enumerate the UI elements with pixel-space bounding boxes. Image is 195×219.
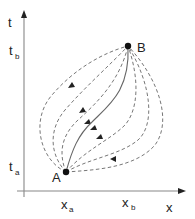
x-axis-label: x — [166, 200, 173, 215]
dashed-path-2 — [53, 46, 128, 172]
svg-text:a: a — [15, 168, 20, 177]
svg-text:x: x — [61, 197, 68, 212]
point-a-label: A — [52, 170, 61, 185]
point-a-marker — [63, 169, 69, 175]
svg-text:b: b — [15, 52, 20, 61]
diagram-canvas: A B t x t b t a x a x b — [0, 0, 195, 219]
svg-text:b: b — [131, 203, 136, 212]
point-b-marker — [125, 43, 131, 49]
alternative-paths — [40, 46, 163, 172]
x-tick-xa: x a — [61, 197, 74, 214]
dashed-path-6 — [66, 46, 163, 172]
svg-text:t: t — [9, 43, 13, 58]
dashed-path-4 — [66, 46, 136, 172]
arrow-icon — [68, 82, 75, 88]
y-tick-tb: t b — [9, 43, 20, 61]
classical-path — [66, 46, 128, 172]
arrow-icon — [110, 156, 116, 162]
y-axis-arrow-icon — [21, 10, 27, 18]
x-axis-arrow-icon — [178, 188, 186, 194]
point-b-label: B — [137, 40, 146, 55]
svg-text:t: t — [9, 159, 13, 174]
dashed-path-5 — [66, 46, 149, 172]
svg-text:x: x — [122, 195, 129, 210]
y-tick-ta: t a — [9, 159, 20, 177]
x-tick-xb: x b — [122, 195, 136, 212]
arrow-icon — [90, 125, 97, 130]
arrow-icon — [79, 107, 86, 113]
svg-text:a: a — [69, 205, 74, 214]
y-axis-label: t — [8, 15, 12, 30]
arrow-icon — [96, 134, 103, 139]
